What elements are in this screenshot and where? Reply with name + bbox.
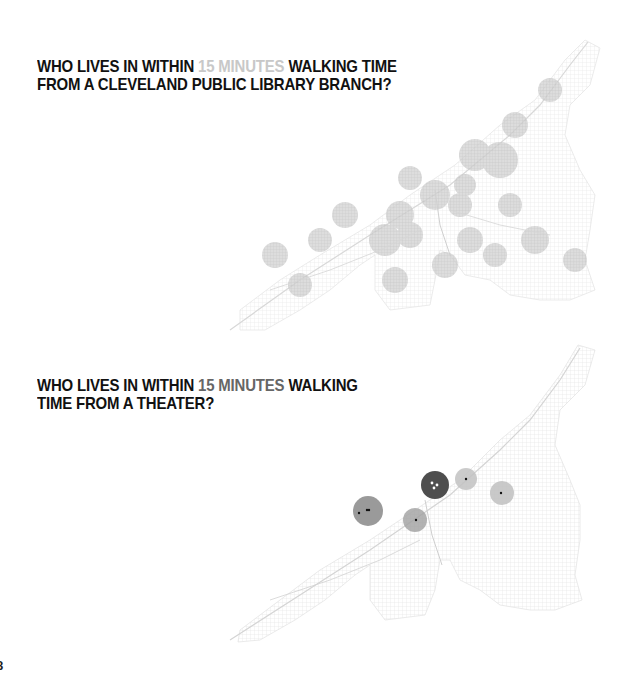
- walkshed-downtown: [421, 471, 449, 499]
- theater-walkshed-map: [210, 330, 631, 660]
- title-pre: WHO LIVES IN WITHIN: [37, 57, 198, 76]
- library-walkshed-map: [210, 30, 625, 350]
- city-footprint: [238, 345, 595, 642]
- walkshed-gordon-square: [353, 496, 383, 526]
- page-number: 8: [0, 658, 3, 673]
- title-pre: WHO LIVES IN WITHIN: [37, 376, 198, 395]
- title-line2: TIME FROM A THEATER?: [37, 394, 214, 413]
